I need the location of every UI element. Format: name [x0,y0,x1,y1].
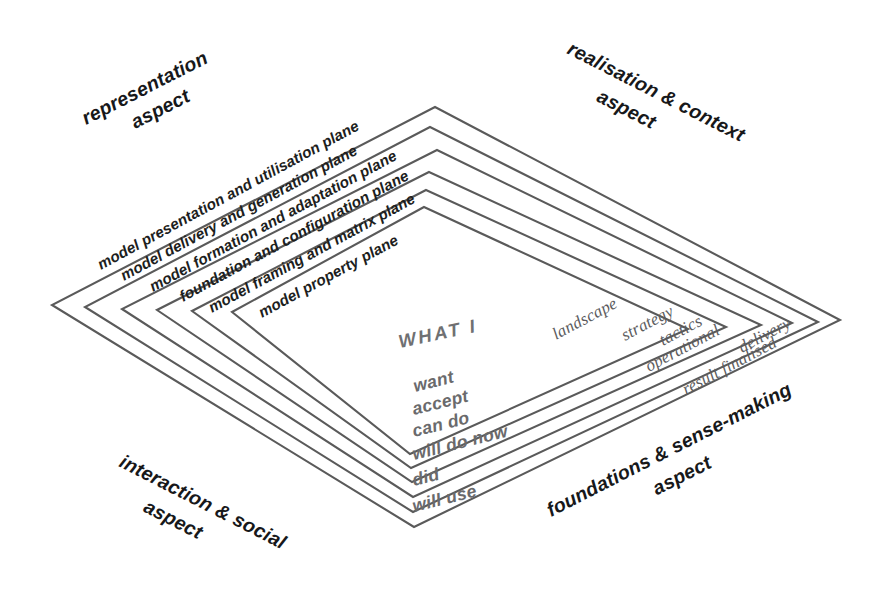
aspect-label-interaction: interaction & social aspect [103,450,290,579]
plane-outline-1 [52,107,840,527]
plane-outlines [52,107,840,527]
diagram-canvas: representation aspect realisation & cont… [0,0,881,604]
aspect-interaction-line1: interaction & social [116,450,290,553]
stage-labels: landscape strategy tactics operational d… [549,293,794,398]
aspect-label-realisation: realisation & context aspect [551,37,750,172]
aspect-label-representation: representation aspect [78,46,223,152]
aspect-label-foundations: foundations & sense-making aspect [543,378,808,547]
center-what-i: WHAT I [396,315,479,352]
nested-planes-svg: representation aspect realisation & cont… [0,0,881,604]
stage-label-1: landscape [549,293,621,343]
aspect-realisation-line1: realisation & context [564,37,750,146]
verb-labels: want accept can do will do now did will … [410,366,511,516]
aspect-foundations-line1: foundations & sense-making [543,378,795,521]
